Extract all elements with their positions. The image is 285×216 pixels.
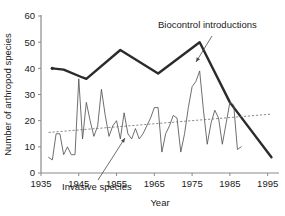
invasive-annotation-arrow (98, 138, 125, 180)
series-start-marker (51, 67, 54, 70)
invasive-annotation-arrowhead (121, 138, 125, 143)
chart-figure: 0102030405060 19351945195519651975198519… (0, 0, 285, 216)
invasive-annotation-label: Invasive species (62, 181, 132, 192)
x-tick-label-1935: 1935 (30, 178, 51, 189)
y-axis: 0102030405060 (24, 10, 41, 178)
y-tick-label-50: 50 (24, 37, 35, 48)
y-axis-title: Number of arthropod species (2, 33, 13, 156)
y-tick-label-20: 20 (24, 115, 35, 126)
biocontrol-annotation-arrowhead (196, 57, 200, 62)
y-tick-label-30: 30 (24, 89, 35, 100)
y-tick-group: 0102030405060 (24, 10, 41, 178)
x-tick-label-1965: 1965 (144, 178, 165, 189)
series-line-biocontrol-introductions (52, 42, 271, 157)
y-tick-label-60: 60 (24, 10, 35, 21)
x-tick-label-1995: 1995 (257, 178, 278, 189)
x-axis-title: Year (150, 197, 169, 208)
data-series-group (49, 42, 272, 160)
x-tick-label-1985: 1985 (219, 178, 240, 189)
y-tick-label-10: 10 (24, 141, 35, 152)
chart-svg: 0102030405060 19351945195519651975198519… (0, 0, 285, 216)
annotation-group: Biocontrol introductionsInvasive species (62, 19, 257, 192)
biocontrol-annotation-label: Biocontrol introductions (158, 19, 257, 30)
y-tick-label-40: 40 (24, 63, 35, 74)
series-line-invasive-species (49, 71, 242, 160)
biocontrol-annotation-arrow (196, 36, 212, 62)
x-tick-label-1975: 1975 (182, 178, 203, 189)
